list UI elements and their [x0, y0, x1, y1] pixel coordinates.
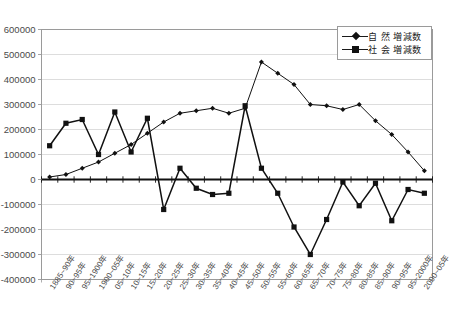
data-point: [63, 172, 68, 177]
legend-item-label: 自 然 増減数: [368, 30, 422, 43]
data-point: [145, 116, 150, 121]
y-axis-tick-label: 600000: [0, 25, 36, 35]
data-point: [373, 181, 378, 186]
legend-item-label: 社 会 増減数: [368, 43, 422, 56]
data-point: [324, 103, 329, 108]
chart-legend: 自 然 増減数社 会 増減数: [337, 26, 432, 60]
data-point: [210, 192, 215, 197]
legend-item-0[interactable]: 自 然 増減数: [342, 30, 426, 43]
data-point: [275, 191, 280, 196]
data-point: [80, 166, 85, 171]
data-point: [357, 203, 362, 208]
data-point: [243, 103, 248, 108]
data-point: [405, 187, 410, 192]
y-axis-tick-label: 400000: [0, 75, 36, 85]
y-axis-tick-label: 300000: [0, 100, 36, 110]
y-axis-tick-label: 100000: [0, 150, 36, 160]
data-point: [161, 207, 166, 212]
data-point: [96, 152, 101, 157]
legend-diamond-marker-icon: [342, 31, 368, 43]
y-axis-tick-label: 500000: [0, 50, 36, 60]
data-point: [389, 218, 394, 223]
data-point: [291, 224, 296, 229]
data-point: [422, 191, 427, 196]
y-axis-tick-label: 200000: [0, 125, 36, 135]
y-axis-tick-label: -200000: [0, 225, 36, 235]
data-point: [259, 166, 264, 171]
y-axis-tick-label: 0: [0, 175, 36, 185]
data-point: [340, 107, 345, 112]
data-point: [177, 111, 182, 116]
y-axis-tick-label: -100000: [0, 200, 36, 210]
legend-item-1[interactable]: 社 会 増減数: [342, 43, 426, 56]
y-axis-tick-label: -400000: [0, 275, 36, 285]
data-point: [308, 252, 313, 257]
data-point: [63, 121, 68, 126]
data-point: [112, 109, 117, 114]
data-point: [226, 111, 231, 116]
data-point: [129, 149, 134, 154]
data-point: [210, 106, 215, 111]
data-point: [194, 108, 199, 113]
data-point: [80, 117, 85, 122]
y-axis-tick-label: -300000: [0, 250, 36, 260]
data-point: [47, 143, 52, 148]
data-point: [177, 166, 182, 171]
data-point: [96, 160, 101, 165]
data-point: [324, 217, 329, 222]
legend-square-marker-icon: [342, 44, 368, 56]
data-point: [194, 186, 199, 191]
data-series: [47, 60, 427, 258]
data-point: [112, 151, 117, 156]
data-point: [340, 179, 345, 184]
data-point: [226, 191, 231, 196]
